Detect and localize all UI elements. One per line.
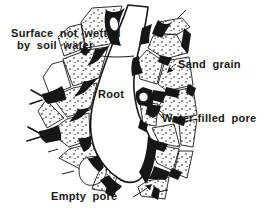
tick-mark [178,10,186,18]
label-surface-line1: Surface not wetted [11,27,121,39]
label-sand-grain: Sand grain [178,58,241,70]
water-film [39,125,61,143]
tick-mark [48,149,58,152]
tick-mark [27,137,40,141]
air-pore [139,92,148,101]
tick-mark [31,90,42,96]
label-surface-not-wetted: Surface not wetted by soil water [11,27,121,51]
tick-mark [28,127,39,133]
label-surface-line2: by soil water [17,39,121,51]
tick-mark [30,100,42,104]
tick-mark [62,171,74,174]
label-root: Root [98,88,124,100]
soil-root-diagram: Surface not wetted by soil water Sand gr… [0,0,271,219]
label-empty-pore: Empty pore [51,190,118,202]
label-water-filled-pore: Water-filled pore [162,112,256,124]
